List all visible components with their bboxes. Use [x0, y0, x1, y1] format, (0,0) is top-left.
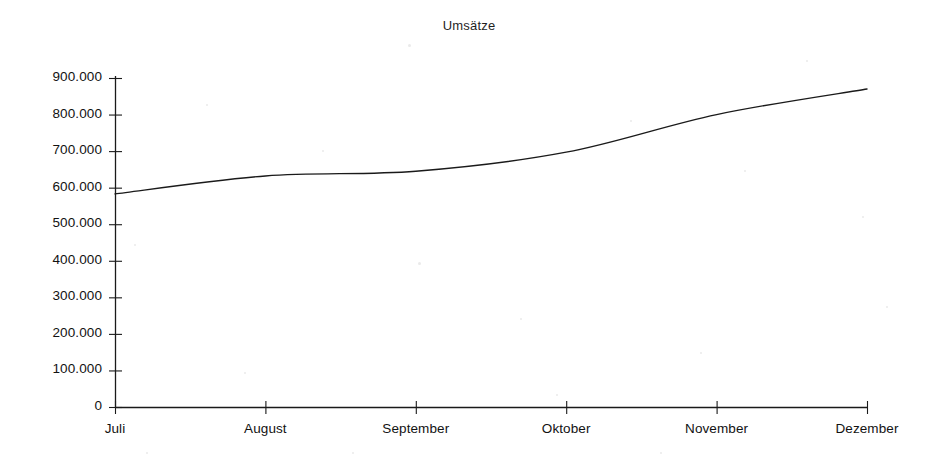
x-axis-tick-label: Juli — [45, 421, 185, 436]
y-axis-tick-label: 200.000 — [0, 325, 102, 340]
x-axis-tick-label: September — [346, 421, 486, 436]
scan-speck — [352, 452, 354, 454]
plot-area — [0, 0, 938, 469]
y-axis-tick-label: 500.000 — [0, 215, 102, 230]
x-axis-tick-label: November — [647, 421, 787, 436]
scan-speck — [630, 120, 632, 122]
x-axis-tick-label: Oktober — [496, 421, 636, 436]
scan-speck — [700, 352, 702, 354]
scan-speck — [660, 452, 662, 454]
scan-speck — [244, 372, 246, 374]
scan-speck — [90, 146, 92, 148]
scan-speck — [862, 216, 864, 218]
y-axis-tick-label: 900.000 — [0, 69, 102, 84]
scan-speck — [556, 394, 558, 396]
line-chart: Umsätze 900.000800.000700.000600.000500.… — [0, 0, 938, 469]
scan-speck — [886, 306, 888, 308]
scan-speck — [408, 44, 411, 47]
y-axis-tick-label: 300.000 — [0, 288, 102, 303]
scan-speck — [744, 170, 746, 172]
scan-speck — [520, 318, 522, 320]
x-axis-tick-label: Dezember — [797, 421, 937, 436]
y-axis-tick-label: 800.000 — [0, 106, 102, 121]
y-axis-tick-label: 400.000 — [0, 252, 102, 267]
x-axis-tick-label: August — [195, 421, 335, 436]
y-axis-tick-label: 100.000 — [0, 361, 102, 376]
scan-speck — [806, 60, 808, 62]
scan-speck — [322, 150, 324, 152]
y-axis-tick-label: 0 — [0, 398, 102, 413]
y-axis-tick-label: 700.000 — [0, 142, 102, 157]
scan-speck — [206, 104, 208, 106]
scan-speck — [146, 452, 148, 454]
data-series-line — [115, 89, 867, 194]
scan-speck — [418, 262, 421, 265]
y-axis-tick-label: 600.000 — [0, 179, 102, 194]
scan-speck — [134, 244, 136, 246]
